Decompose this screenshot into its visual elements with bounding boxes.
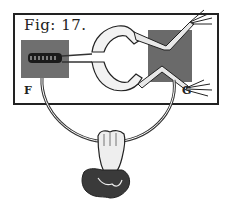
plate-f-label: F (24, 84, 32, 97)
plate-g-label: G (182, 84, 191, 97)
cuff (82, 169, 130, 198)
nerve-coil (28, 53, 62, 63)
frog-thigh-upper (92, 26, 140, 52)
figure-label: Fig: 17. (24, 16, 86, 34)
hand (98, 131, 125, 172)
frog-thigh-lower (92, 62, 142, 91)
coil-highlights (31, 56, 55, 60)
frog-foot-upper (190, 10, 212, 24)
